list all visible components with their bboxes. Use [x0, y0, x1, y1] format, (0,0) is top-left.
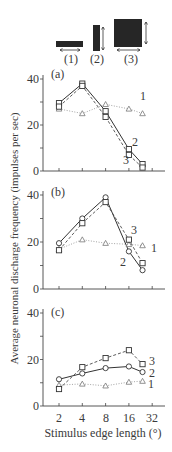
square-marker-icon: [126, 348, 131, 353]
panel-label-c: (c): [51, 305, 64, 319]
circle-marker-icon: [103, 366, 108, 371]
square-marker-icon: [103, 199, 108, 204]
square-marker-icon: [140, 165, 145, 170]
triangle-marker-icon: [103, 102, 109, 107]
x-tick-label-4: 4: [79, 411, 85, 425]
square-marker-icon: [80, 83, 85, 88]
series-line-2: [59, 197, 143, 270]
triangle-marker-icon: [103, 240, 109, 245]
x-tick-label-8: 8: [103, 411, 109, 425]
square-marker-icon: [80, 221, 85, 226]
square-marker-icon: [56, 248, 61, 253]
series-label-1: 1: [151, 241, 157, 255]
panel-label-a: (a): [51, 67, 64, 81]
series-label-3: 3: [131, 223, 137, 237]
square-marker-icon: [126, 147, 131, 152]
square-marker-icon: [103, 356, 108, 361]
circle-marker-icon: [56, 241, 61, 246]
series-label-1: 1: [148, 377, 154, 391]
x-tick-label-2: 2: [56, 411, 62, 425]
plot-canvas: [0, 0, 172, 452]
square-marker-icon: [103, 114, 108, 119]
circle-marker-icon: [80, 371, 85, 376]
series-label-1: 1: [140, 89, 146, 103]
panel-label-b: (b): [51, 185, 65, 199]
triangle-marker-icon: [140, 111, 146, 116]
triangle-marker-icon: [126, 379, 132, 384]
square-marker-icon: [126, 237, 131, 242]
y-axis-label: Average neuronal discharge frequency (im…: [8, 99, 21, 379]
square-marker-icon: [80, 365, 85, 370]
y-tick-label-40: 40: [17, 72, 39, 86]
series-label-2: 2: [120, 255, 126, 269]
square-marker-icon: [140, 261, 145, 266]
series-label-3: 3: [123, 153, 129, 167]
square-marker-icon: [56, 386, 61, 391]
triangle-marker-icon: [140, 378, 146, 383]
circle-marker-icon: [140, 268, 145, 273]
x-tick-label-32: 32: [146, 411, 158, 425]
series-label-2: 2: [132, 135, 138, 149]
circle-marker-icon: [56, 377, 61, 382]
y-tick-label-0: 0: [17, 399, 39, 413]
x-axis-label: Stimulus edge length (°): [44, 426, 161, 440]
square-marker-icon: [56, 104, 61, 109]
circle-marker-icon: [126, 249, 131, 254]
circle-marker-icon: [126, 364, 131, 369]
square-marker-icon: [103, 109, 108, 114]
circle-marker-icon: [140, 369, 145, 374]
x-tick-label-16: 16: [123, 411, 135, 425]
square-marker-icon: [140, 362, 145, 367]
triangle-marker-icon: [80, 237, 86, 242]
